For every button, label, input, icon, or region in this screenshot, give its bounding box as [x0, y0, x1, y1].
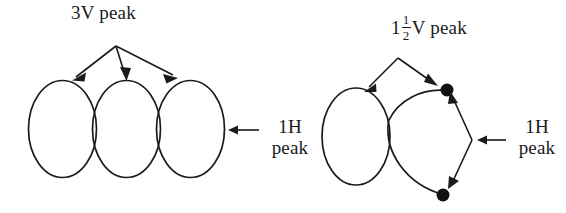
lens-upper-arc	[389, 90, 447, 121]
fraction-denominator: 2	[402, 29, 411, 42]
arrow-head-right	[163, 74, 178, 84]
label-peak-line: peak	[262, 138, 318, 159]
chevron-lower-arrow-head	[448, 176, 459, 189]
one-h-peak-arrow-left	[228, 126, 259, 135]
three-loop-group	[29, 81, 225, 178]
loop-ellipse-3	[157, 81, 225, 178]
loop-ellipse-2	[93, 81, 161, 178]
two-loop-group	[322, 88, 447, 195]
chevron-group	[448, 91, 472, 189]
one-half-suffix: V peak	[412, 18, 467, 39]
arrow-head-1h-left	[228, 126, 238, 135]
arrow-head-right-2	[424, 74, 438, 87]
fraction-one-half: 1 2	[402, 13, 411, 42]
arrow-line-left-2	[369, 58, 398, 87]
label-three-v-peak: 3V peak	[71, 3, 136, 24]
node-dot-bottom	[437, 189, 450, 202]
arrow-head-1h-right	[477, 136, 487, 145]
loop-ellipse-4	[322, 88, 390, 185]
chevron-lower-line	[453, 140, 472, 181]
label-one-h-peak-left: 1H peak	[262, 117, 318, 158]
arrow-head-middle	[120, 67, 131, 81]
one-half-v-peak-arrow-group	[364, 58, 438, 92]
one-half-prefix: 1	[391, 18, 401, 39]
fraction-numerator: 1	[402, 13, 411, 26]
label-peak-line: peak	[509, 138, 565, 159]
one-h-peak-arrow-right	[477, 136, 506, 145]
chevron-upper-line	[453, 98, 472, 140]
label-one-h-line: 1H	[509, 117, 565, 138]
label-one-h-line: 1H	[262, 117, 318, 138]
lens-lower-arc	[388, 121, 443, 195]
three-v-peak-arrow-group	[72, 46, 178, 84]
label-one-h-peak-right: 1H peak	[509, 117, 565, 158]
label-one-and-a-half-v-peak: 1 1 2 V peak	[391, 14, 467, 43]
arrow-line-left	[76, 46, 116, 77]
loop-ellipse-1	[29, 81, 97, 178]
electrical-winding-diagram	[0, 0, 566, 213]
